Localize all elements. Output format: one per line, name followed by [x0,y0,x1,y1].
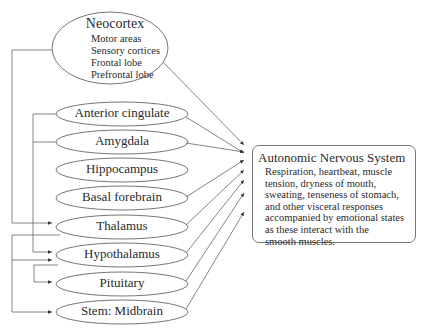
neocortex-title: Neocortex [80,17,150,31]
ans-title: Autonomic Nervous System [258,150,405,166]
ans-line: Respiration, heartbeat, muscle [265,166,404,178]
ans-description: Respiration, heartbeat, muscle tension, … [265,166,404,247]
ans-line: smooth muscles. [265,236,404,248]
neocortex-item: Sensory cortices [91,45,160,57]
neocortex-item: Frontal lobe [91,57,142,69]
thalamus-label: Thalamus [56,219,188,233]
stem-midbrain-label: Stem: Midbrain [56,304,188,318]
ans-line: accompanied by emotional states [265,212,404,224]
neocortex-item: Motor areas [91,33,141,45]
basal-forebrain-label: Basal forebrain [56,190,188,204]
ans-line: sweating, tenseness of stomach, [265,189,404,201]
neocortex-item: Prefrontal lobe [91,69,154,81]
ans-line: and other visceral responses [265,201,404,213]
pituitary-label: Pituitary [56,276,188,290]
hypothalamus-label: Hypothalamus [56,247,188,261]
ans-line: as these interact with the [265,224,404,236]
anterior-cingulate-label: Anterior cingulate [56,106,188,120]
amygdala-label: Amygdala [56,134,188,148]
ans-line: tension, dryness of mouth, [265,178,404,190]
hippocampus-label: Hippocampus [56,162,188,176]
autonomic-nervous-system-box: Autonomic Nervous System Respiration, he… [252,145,416,243]
